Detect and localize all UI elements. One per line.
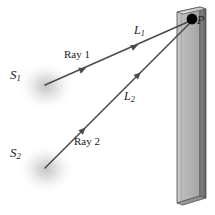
- figure-canvas: [0, 0, 215, 215]
- path-length-1-label: L1: [134, 24, 145, 38]
- source-1-label: S1: [10, 68, 21, 83]
- point-p-marker: [187, 14, 198, 25]
- source-2-label: S2: [10, 146, 21, 161]
- wall-front-face: [177, 7, 200, 203]
- ray-2-label: Ray 2: [74, 136, 100, 147]
- interference-figure: S1 S2 L1 L2 P Ray 1 Ray 2: [0, 0, 215, 215]
- point-p-label: P: [197, 14, 204, 26]
- wall-right-edge: [200, 7, 206, 198]
- source2-glow: [17, 144, 75, 194]
- ray-1-label: Ray 1: [64, 49, 90, 60]
- path-length-2-label: L2: [124, 90, 135, 104]
- source1-glow: [17, 61, 75, 111]
- screen-wall: [177, 7, 206, 205]
- source-glow-group: [17, 61, 75, 194]
